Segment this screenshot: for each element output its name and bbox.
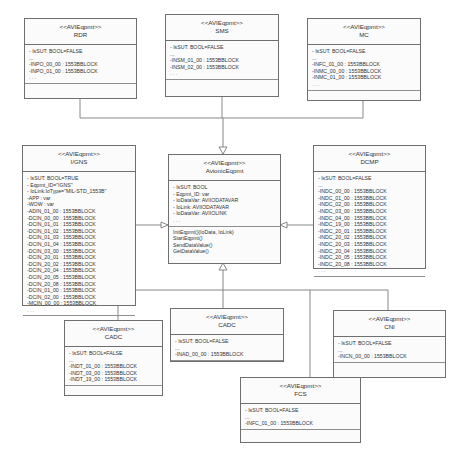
attribute: ... — [245, 414, 356, 421]
stereotype-label: <<AVIEqpmt>> — [316, 150, 423, 158]
attribute: -DCIN_00_00 : 1553BBLOCK — [27, 215, 131, 222]
attribute: -INDT_19_00 : 1553BBLOCK — [69, 376, 158, 383]
attribute: -DCIN_01_01 : 1553BBLOCK — [27, 221, 131, 228]
class-name: FCS — [243, 390, 358, 398]
attribute: ... — [338, 347, 441, 354]
attribute: - Eqpmt_ID="IGNS" — [27, 182, 131, 189]
attribute: -INPO_00_00 : 1553BBLOCK — [29, 61, 132, 68]
class-header: <<AVIEqpmt>> RDR — [25, 19, 136, 45]
attribute: ... — [312, 55, 416, 62]
stereotype-label: <<AVIEqpmt>> — [171, 159, 278, 167]
attribute: ... — [29, 55, 132, 62]
stereotype-label: <<AVIEqpmt>> — [67, 325, 160, 333]
class-header: <<AVIEqpmt>> SMS — [166, 15, 278, 41]
class-header: <<AVIEqpmt>> DCMP — [314, 146, 425, 172]
attribute: -INDC_20_01 : 1553BBLOCK — [318, 228, 421, 235]
stereotype-label: <<AVIEqpmt>> — [25, 150, 133, 158]
attribute: ... — [170, 51, 274, 58]
attribute: . . . — [27, 307, 131, 314]
class-name: CADC — [67, 333, 160, 341]
attribute-list: - IsSUT: BOOL=FALSE ... -INCN_00_00 : 15… — [334, 337, 445, 363]
attribute: -DCIN_20_01 : 1553BBLOCK — [27, 254, 131, 261]
class-name: SMS — [168, 27, 276, 35]
attribute: - IsSUT: BOOL=FALSE — [245, 407, 356, 414]
attribute: -INFC_01_00 : 1553BBLOCK — [245, 420, 356, 427]
attribute: -INDT_03_00 : 1553BBLOCK — [69, 370, 158, 377]
attribute: -INDC_04_00 : 1553BBLOCK — [318, 215, 421, 222]
attribute: . . . — [173, 217, 276, 224]
attribute: -INDC_20_08 : 1553BBLOCK — [318, 261, 421, 268]
class-cadc-left: <<AVIEqpmt>> CADC - IsSUT: BOOL=FALSE ..… — [64, 320, 163, 396]
attribute-list: - IsSUT: BOOL=FALSE ... -INAD_00_00 : 15… — [171, 335, 283, 361]
class-header: <<AVIEqpmt>> CADC — [171, 309, 283, 335]
operation-list — [314, 277, 425, 288]
class-name: DCMP — [316, 158, 423, 166]
attribute: -DCIN_20_08 : 1553BBLOCK — [27, 281, 131, 288]
attribute: -DCIN_01_04 : 1553BBLOCK — [27, 241, 131, 248]
class-header: <<AVIEqpmt>> CNI — [334, 311, 445, 337]
attribute: ... — [318, 182, 421, 189]
attribute-list: - IsSUT: BOOL=FALSE ... -INDC_00_00 : 15… — [314, 172, 425, 277]
attribute-list: - IsSUT: BOOL - Eqpmt_ID: var - IoDataVa… — [169, 181, 280, 227]
attribute: -DCIN_03_00 : 1553BBLOCK — [27, 248, 131, 255]
attribute: -INDC_19_00 : 1553BBLOCK — [318, 221, 421, 228]
attribute: -DCIN_01_00 : 1553BBLOCK — [27, 287, 131, 294]
operation: GetDataValue() — [173, 248, 276, 255]
attribute: -INPO_01_00 : 1553BBLOCK — [29, 68, 132, 75]
class-name: CADC — [173, 321, 281, 329]
attribute: -INDC_20_04 : 1553BBLOCK — [318, 248, 421, 255]
attribute-list: - IsSUT: BOOL=FALSE ... -INPO_00_00 : 15… — [25, 45, 136, 84]
stereotype-label: <<AVIEqpmt>> — [173, 313, 281, 321]
attribute: - IoLink: AVIIODATAVAR — [173, 204, 276, 211]
attribute: -INCN_00_00 : 1553BBLOCK — [338, 353, 441, 360]
stereotype-label: <<AVIEqpmt>> — [27, 23, 134, 31]
attribute: -DCIN_01_03 : 1553BBLOCK — [27, 234, 131, 241]
class-cni: <<AVIEqpmt>> CNI - IsSUT: BOOL=FALSE ...… — [333, 310, 446, 378]
attribute-list: - IsSUT: BOOL=FALSE ... -INFC_01_00 : 15… — [241, 404, 360, 430]
attribute: -DCIN_20_05 : 1553BBLOCK — [27, 274, 131, 281]
attribute: -INAD_00_00 : 1553BBLOCK — [175, 351, 279, 358]
attribute: -INDC_03_00 : 1553BBLOCK — [318, 208, 421, 215]
operation-list — [241, 430, 360, 441]
attribute: - IsSUT: BOOL — [173, 184, 276, 191]
attribute: -INDC_01_00 : 1553BBLOCK — [318, 195, 421, 202]
operation-list — [65, 386, 162, 397]
attribute: ... — [69, 357, 158, 364]
attribute: - IsSUT: BOOL=FALSE — [318, 175, 421, 182]
attribute: -DCIN_20_04 : 1553BBLOCK — [27, 267, 131, 274]
operation: InitEqpmt(){IoData, IoLink} — [173, 229, 276, 236]
operation-list — [171, 361, 283, 372]
attribute: - IoDataVar: AVIIOLINK — [173, 210, 276, 217]
operation-list — [334, 363, 445, 374]
class-name: RDR — [27, 31, 134, 39]
attribute: -INSM_02_00 : 1553BBLOCK — [170, 64, 274, 71]
attribute: -INFC_01_00 : 1553BBLOCK — [312, 61, 416, 68]
class-rdr: <<AVIEqpmt>> RDR - IsSUT: BOOL=FALSE ...… — [24, 18, 137, 99]
class-header: <<AVIEqpmt>> I/GNS — [23, 146, 135, 172]
operation-list: InitEqpmt(){IoData, IoLink} StartEqpmt()… — [169, 227, 280, 258]
attribute: . . . — [312, 81, 416, 88]
attribute: - IsSUT: BOOL=FALSE — [69, 350, 158, 357]
attribute: -INSM_01_00 : 1553BBLOCK — [170, 57, 274, 64]
attribute: -MCIN_00_00 : 1553BBLOCK — [27, 300, 131, 307]
attribute: -INDC_02_00 : 1553BBLOCK — [318, 201, 421, 208]
attribute: - IoDataVar: AVIIODATAVAR — [173, 197, 276, 204]
class-fcs: <<AVIEqpmt>> FCS - IsSUT: BOOL=FALSE ...… — [240, 377, 361, 443]
attribute: -APP : var — [27, 195, 131, 202]
attribute: -WOW : var — [27, 201, 131, 208]
attribute: -INDC_00_00 : 1553BBLOCK — [318, 188, 421, 195]
class-name: MC — [310, 31, 418, 39]
attribute-list: - IsSUT: BOOL=FALSE ... -INFC_01_00 : 15… — [308, 45, 420, 91]
attribute: - IsSUT: BOOL=FALSE — [175, 338, 279, 345]
attribute: -ADIN_01_00 : 1553BBLOCK — [27, 208, 131, 215]
operation: StartEqpmt() — [173, 235, 276, 242]
class-cadc-mid: <<AVIEqpmt>> CADC - IsSUT: BOOL=FALSE ..… — [170, 308, 284, 362]
stereotype-label: <<AVIEqpmt>> — [168, 19, 276, 27]
attribute: -INDC_20_05 : 1553BBLOCK — [318, 254, 421, 261]
attribute: . . . — [29, 74, 132, 81]
attribute: -DCIN_02_00 : 1553BBLOCK — [27, 294, 131, 301]
stereotype-label: <<AVIEqpmt>> — [243, 382, 358, 390]
attribute: -DCIN_20_02 : 1553BBLOCK — [27, 261, 131, 268]
stereotype-label: <<AVIEqpmt>> — [336, 315, 443, 323]
operation: SendDataValue() — [173, 242, 276, 249]
